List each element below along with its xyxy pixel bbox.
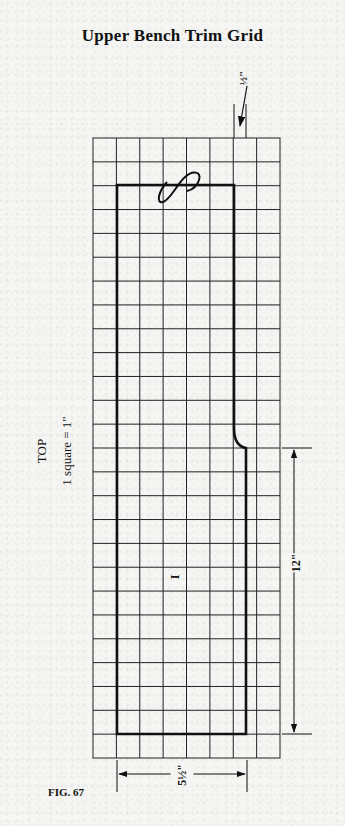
square-grid bbox=[93, 138, 280, 758]
trim-grid-drawing bbox=[0, 0, 345, 826]
height-dimension-label: 12" bbox=[285, 554, 308, 573]
figure-number: FIG. 67 bbox=[48, 786, 84, 798]
curl-ornament bbox=[159, 173, 200, 203]
half-inch-marker bbox=[234, 86, 247, 138]
view-label: TOP bbox=[34, 439, 50, 463]
offset-dimension-label: ½" bbox=[237, 71, 249, 85]
trim-outline bbox=[117, 185, 246, 734]
scale-label: 1 square = 1" bbox=[59, 416, 75, 485]
part-number-label: I bbox=[168, 575, 183, 580]
height-dimension bbox=[282, 448, 312, 734]
width-dimension-label: 5½" bbox=[171, 764, 194, 786]
